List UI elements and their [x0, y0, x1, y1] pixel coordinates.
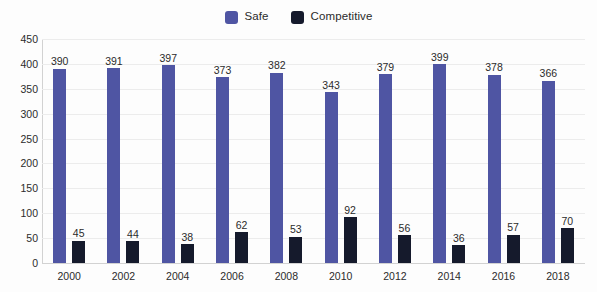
bar-value-label: 36: [453, 233, 465, 244]
bar-group: 39738: [151, 39, 205, 263]
bar-value-label: 391: [105, 56, 123, 67]
bar-group: 37362: [205, 39, 259, 263]
bar-value-label: 92: [344, 205, 356, 216]
legend-swatch-competitive-icon: [291, 11, 304, 24]
bar-group: 39936: [422, 39, 476, 263]
y-tick-label: 450: [4, 34, 38, 45]
bar-safe-2014[interactable]: 399: [433, 64, 446, 263]
bar-value-label: 53: [290, 224, 302, 235]
legend-label-safe: Safe: [245, 11, 269, 23]
bar-group: 36670: [531, 39, 585, 263]
bar-value-label: 397: [159, 53, 177, 64]
bar-competitive-2014[interactable]: 36: [452, 245, 465, 263]
x-axis-tick-labels: 2000200220042006200820102012201420162018: [42, 267, 585, 285]
bar-group: 38253: [259, 39, 313, 263]
bar-competitive-2016[interactable]: 57: [507, 235, 520, 263]
bar-competitive-2006[interactable]: 62: [235, 232, 248, 263]
x-tick-label: 2018: [531, 267, 585, 285]
y-tick-label: 100: [4, 208, 38, 219]
x-tick-label: 2014: [422, 267, 476, 285]
y-tick-label: 250: [4, 133, 38, 144]
y-tick-label: 200: [4, 158, 38, 169]
bar-chart: Safe Competitive 05010015020025030035040…: [0, 0, 597, 292]
bar-competitive-2000[interactable]: 45: [72, 241, 85, 263]
x-tick-label: 2008: [259, 267, 313, 285]
bar-safe-2010[interactable]: 343: [325, 92, 338, 263]
bar-group: 34392: [313, 39, 367, 263]
x-tick-label: 2000: [42, 267, 96, 285]
bar-competitive-2010[interactable]: 92: [344, 217, 357, 263]
bar-safe-2000[interactable]: 390: [53, 69, 66, 263]
x-tick-label: 2002: [96, 267, 150, 285]
bar-competitive-2004[interactable]: 38: [181, 244, 194, 263]
x-tick-label: 2004: [151, 267, 205, 285]
bar-value-label: 62: [236, 220, 248, 231]
y-tick-label: 400: [4, 59, 38, 70]
legend-label-competitive: Competitive: [311, 11, 373, 23]
bar-value-label: 399: [431, 52, 449, 63]
x-tick-label: 2006: [205, 267, 259, 285]
bar-group: 39144: [96, 39, 150, 263]
bar-value-label: 378: [485, 62, 503, 73]
bar-value-label: 57: [507, 222, 519, 233]
bar-value-label: 382: [268, 60, 286, 71]
bar-safe-2002[interactable]: 391: [107, 68, 120, 263]
x-tick-label: 2016: [476, 267, 530, 285]
y-tick-label: 0: [4, 258, 38, 269]
bar-value-label: 343: [322, 80, 340, 91]
x-tick-label: 2010: [313, 267, 367, 285]
legend-swatch-safe-icon: [225, 11, 238, 24]
bar-value-label: 45: [73, 228, 85, 239]
bar-value-label: 56: [399, 223, 411, 234]
bar-value-label: 44: [127, 229, 139, 240]
bar-groups: 3904539144397383736238253343923795639936…: [42, 39, 585, 263]
bar-safe-2006[interactable]: 373: [216, 77, 229, 263]
bar-value-label: 38: [181, 232, 193, 243]
bar-competitive-2008[interactable]: 53: [289, 237, 302, 263]
bar-value-label: 70: [561, 216, 573, 227]
y-tick-label: 50: [4, 233, 38, 244]
bar-safe-2012[interactable]: 379: [379, 74, 392, 263]
bar-safe-2008[interactable]: 382: [270, 73, 283, 263]
bar-safe-2004[interactable]: 397: [162, 65, 175, 263]
y-axis-tick-labels: 050100150200250300350400450: [0, 39, 38, 263]
bar-competitive-2002[interactable]: 44: [126, 241, 139, 263]
x-tick-label: 2012: [368, 267, 422, 285]
y-tick-label: 150: [4, 183, 38, 194]
bar-value-label: 366: [540, 68, 558, 79]
bar-safe-2016[interactable]: 378: [488, 75, 501, 263]
bar-group: 39045: [42, 39, 96, 263]
y-tick-label: 300: [4, 108, 38, 119]
bar-competitive-2012[interactable]: 56: [398, 235, 411, 263]
bar-competitive-2018[interactable]: 70: [561, 228, 574, 263]
plot-area: 3904539144397383736238253343923795639936…: [42, 39, 585, 263]
bar-group: 37956: [368, 39, 422, 263]
bar-value-label: 390: [51, 56, 69, 67]
legend-item-competitive[interactable]: Competitive: [291, 11, 373, 24]
bar-group: 37857: [476, 39, 530, 263]
bar-safe-2018[interactable]: 366: [542, 81, 555, 263]
legend-item-safe[interactable]: Safe: [225, 11, 269, 24]
gridline-0: [42, 263, 585, 264]
chart-legend: Safe Competitive: [0, 6, 597, 28]
bar-value-label: 373: [214, 65, 232, 76]
bar-value-label: 379: [377, 62, 395, 73]
y-tick-label: 350: [4, 84, 38, 95]
